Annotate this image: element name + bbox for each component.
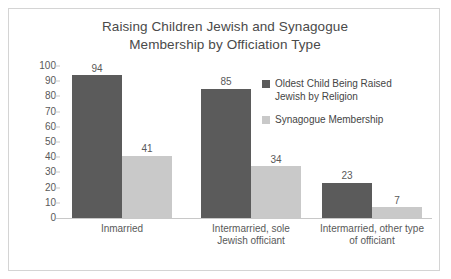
chart-legend: Oldest Child Being Raised Jewish by Reli…	[262, 78, 438, 138]
chart-title-line-1: Raising Children Jewish and Synagogue	[9, 18, 441, 36]
bar-value-other-officiant-synagogue-membership: 7	[372, 195, 422, 206]
category-label-inmarried-line-1: Inmarried	[60, 223, 184, 235]
legend-label-raised-jewish-line-2: Jewish by Religion	[275, 91, 438, 104]
y-tick-mark-40	[54, 157, 60, 158]
category-label-inmarried: Inmarried	[60, 223, 184, 235]
bar-other-officiant-raised-jewish[interactable]	[322, 183, 372, 218]
category-label-sole-jewish-officiant-line-2: Jewish officiant	[189, 235, 313, 247]
x-axis-line	[56, 218, 432, 219]
bar-value-inmarried-synagogue-membership: 41	[122, 143, 172, 154]
category-label-sole-jewish-officiant: Intermarried, sole Jewish officiant	[189, 223, 313, 247]
y-tick-mark-70	[54, 111, 60, 112]
chart-title-line-2: Membership by Officiation Type	[9, 36, 441, 54]
y-axis-tick-marks	[9, 66, 64, 218]
category-label-other-officiant: Intermarried, other type of officiant	[310, 223, 434, 247]
x-axis-category-labels: Inmarried Intermarried, sole Jewish offi…	[64, 223, 432, 263]
y-tick-mark-10	[54, 202, 60, 203]
legend-item-synagogue-membership[interactable]: Synagogue Membership	[262, 114, 438, 127]
category-label-other-officiant-line-1: Intermarried, other type	[310, 223, 434, 235]
legend-swatch-icon-synagogue-membership	[262, 116, 270, 124]
bar-inmarried-raised-jewish[interactable]	[72, 75, 122, 218]
legend-label-synagogue-membership-line-1: Synagogue Membership	[275, 114, 438, 127]
y-tick-mark-90	[54, 81, 60, 82]
y-tick-mark-30	[54, 172, 60, 173]
category-label-other-officiant-line-2: of officiant	[310, 235, 434, 247]
bar-sole-jewish-officiant-synagogue-membership[interactable]	[251, 166, 301, 218]
legend-label-raised-jewish-line-1: Oldest Child Being Raised	[275, 78, 438, 91]
bar-value-sole-jewish-officiant-raised-jewish: 85	[201, 76, 251, 87]
bar-inmarried-synagogue-membership[interactable]	[122, 156, 172, 218]
bar-group-inmarried: 94 41	[72, 66, 172, 218]
y-tick-mark-20	[54, 187, 60, 188]
legend-swatch-icon-raised-jewish	[262, 80, 270, 88]
bar-sole-jewish-officiant-raised-jewish[interactable]	[201, 89, 251, 218]
legend-item-raised-jewish[interactable]: Oldest Child Being Raised Jewish by Reli…	[262, 78, 438, 103]
chart-container: Raising Children Jewish and Synagogue Me…	[8, 8, 440, 271]
y-tick-mark-60	[54, 126, 60, 127]
y-tick-mark-50	[54, 142, 60, 143]
bar-value-sole-jewish-officiant-synagogue-membership: 34	[251, 154, 301, 165]
chart-title: Raising Children Jewish and Synagogue Me…	[9, 18, 441, 54]
bar-other-officiant-synagogue-membership[interactable]	[372, 207, 422, 218]
y-tick-mark-100	[54, 66, 60, 67]
category-label-sole-jewish-officiant-line-1: Intermarried, sole	[189, 223, 313, 235]
bar-value-inmarried-raised-jewish: 94	[72, 63, 122, 74]
y-tick-mark-80	[54, 96, 60, 97]
bar-value-other-officiant-raised-jewish: 23	[322, 170, 372, 181]
